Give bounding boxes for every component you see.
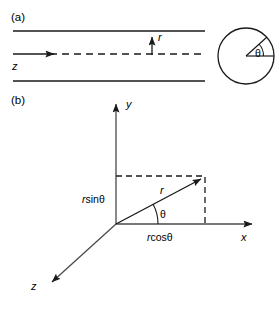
rsintheta-theta: θ xyxy=(99,193,105,205)
panel-b-theta-arc xyxy=(153,204,158,224)
component-rcostheta-label: rcosθ xyxy=(147,232,173,243)
panel-a-theta-label: θ xyxy=(255,48,261,59)
position-vector-r xyxy=(116,179,201,224)
panel-b-z-axis-label: z xyxy=(31,281,37,292)
panel-a-r-label: r xyxy=(158,32,162,43)
panel-a-graphics xyxy=(13,28,274,84)
panel-b-y-axis-label: y xyxy=(126,99,132,110)
panel-b-x-axis-label: x xyxy=(241,232,247,243)
figure-canvas xyxy=(0,0,280,310)
rsintheta-function: sin xyxy=(86,193,99,205)
panel-b-label: (b) xyxy=(11,95,25,107)
position-vector-r-label: r xyxy=(160,185,164,196)
panel-b-z-axis xyxy=(52,224,116,282)
rcostheta-function: cos xyxy=(151,231,167,243)
figure-container: (a) z r θ (b) y x z r θ rsinθ rcosθ xyxy=(0,0,280,310)
rcostheta-theta: θ xyxy=(167,231,173,243)
panel-a-label: (a) xyxy=(11,12,25,24)
panel-b-theta-label: θ xyxy=(160,209,166,220)
panel-a-z-label: z xyxy=(12,61,18,72)
component-rsintheta-label: rsinθ xyxy=(82,194,105,205)
